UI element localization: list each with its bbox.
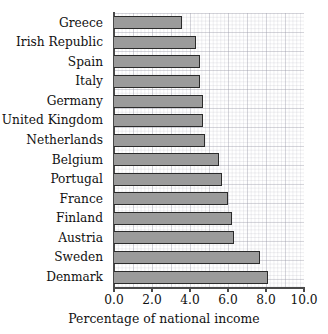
bar-row <box>114 130 304 150</box>
x-axis-tick-mark <box>113 288 114 292</box>
y-axis-tick-label: Portugal <box>50 173 103 185</box>
y-axis-tick-labels: GreeceIrish RepublicSpainItalyGermanyUni… <box>0 13 108 287</box>
x-axis-tick-mark <box>265 288 266 292</box>
bar-row <box>114 170 304 190</box>
y-axis-tick-label-row: Austria <box>0 228 108 248</box>
y-axis-tick-label: Italy <box>75 75 103 87</box>
bar <box>114 192 228 205</box>
bar-row <box>114 111 304 131</box>
bar <box>114 95 203 108</box>
bar <box>114 271 268 284</box>
y-axis-tick-label: France <box>60 193 103 205</box>
x-axis-tick-label: 2.0 <box>142 293 161 307</box>
x-axis-tick-label: 6.0 <box>218 293 237 307</box>
bar-row <box>114 91 304 111</box>
y-axis-tick-label: Belgium <box>52 154 103 166</box>
y-axis-tick-label-row: United Kingdom <box>0 111 108 131</box>
bar-row <box>114 248 304 268</box>
y-axis-tick-label: United Kingdom <box>2 114 103 126</box>
y-axis-tick-label-row: Portugal <box>0 170 108 190</box>
bar-row <box>114 189 304 209</box>
bar <box>114 134 205 147</box>
bar <box>114 153 219 166</box>
bar <box>114 16 182 29</box>
bar <box>114 36 196 49</box>
bar-chart: GreeceIrish RepublicSpainItalyGermanyUni… <box>0 0 328 334</box>
y-axis-tick-label: Sweden <box>54 251 103 263</box>
y-axis-tick-label: Austria <box>58 232 103 244</box>
y-axis-tick-label-row: Sweden <box>0 248 108 268</box>
x-axis-tick-label: 10.0 <box>290 293 317 307</box>
y-axis-tick-label-row: France <box>0 189 108 209</box>
y-axis-tick-label-row: Denmark <box>0 267 108 287</box>
bar <box>114 55 200 68</box>
y-axis-tick-label-row: Spain <box>0 52 108 72</box>
x-axis-tick-mark <box>189 288 190 292</box>
bar-row <box>114 72 304 92</box>
y-axis-tick-label: Irish Republic <box>16 36 103 48</box>
y-axis-tick-label: Spain <box>68 56 103 68</box>
x-axis-tick-mark <box>227 288 228 292</box>
bars-layer <box>114 13 304 287</box>
y-axis-tick-label: Netherlands <box>26 134 103 146</box>
bar-row <box>114 52 304 72</box>
x-axis-tick-mark <box>151 288 152 292</box>
y-axis-tick-label-row: Germany <box>0 91 108 111</box>
x-axis-tick-label: 8.0 <box>256 293 275 307</box>
bar-row <box>114 13 304 33</box>
y-axis-tick-label-row: Finland <box>0 209 108 229</box>
y-axis-tick-label: Denmark <box>46 271 103 283</box>
x-axis-spine <box>113 287 305 289</box>
bar <box>114 231 234 244</box>
y-axis-tick-label-row: Greece <box>0 13 108 33</box>
bar <box>114 114 203 127</box>
bar-row <box>114 228 304 248</box>
y-axis-tick-label-row: Irish Republic <box>0 33 108 53</box>
bar-row <box>114 267 304 287</box>
x-axis-title: Percentage of national income <box>0 311 328 326</box>
y-axis-tick-label: Finland <box>56 212 103 224</box>
x-axis-tick-label: 0.0 <box>104 293 123 307</box>
bar <box>114 173 222 186</box>
bar <box>114 75 200 88</box>
y-axis-tick-label: Germany <box>47 95 103 107</box>
x-axis-tick-mark <box>303 288 304 292</box>
y-axis-tick-label: Greece <box>59 17 103 29</box>
bar-row <box>114 33 304 53</box>
y-axis-tick-label-row: Netherlands <box>0 130 108 150</box>
bar <box>114 251 260 264</box>
x-axis-tick-label: 4.0 <box>180 293 199 307</box>
y-axis-tick-label-row: Italy <box>0 72 108 92</box>
bar-row <box>114 209 304 229</box>
bar-row <box>114 150 304 170</box>
y-axis-tick-label-row: Belgium <box>0 150 108 170</box>
bar <box>114 212 232 225</box>
